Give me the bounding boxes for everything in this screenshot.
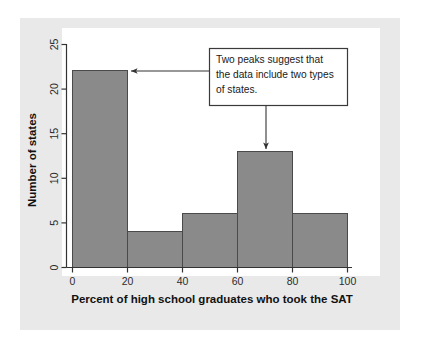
y-tick-label-0: 0 [48, 264, 60, 270]
bar-5[interactable] [293, 214, 348, 268]
y-tick-label-5: 5 [48, 220, 60, 226]
bar-4[interactable] [238, 152, 293, 268]
y-tick-label-15: 15 [48, 128, 60, 140]
histogram-chart: 0 5 10 15 20 25 0 20 40 60 80 100 Number… [0, 0, 423, 346]
annotation-two-peaks: Two peaks suggest that the data include … [131, 49, 348, 150]
x-tick-label-20: 20 [122, 275, 134, 287]
figure-container: 0 5 10 15 20 25 0 20 40 60 80 100 Number… [0, 0, 423, 346]
x-tick-label-80: 80 [287, 275, 299, 287]
x-axis-title: Percent of high school graduates who too… [71, 293, 353, 305]
bar-2[interactable] [128, 232, 183, 268]
y-tick-label-10: 10 [48, 172, 60, 184]
bar-3[interactable] [183, 214, 238, 268]
x-tick-label-0: 0 [70, 275, 76, 287]
y-axis-title: Number of states [26, 113, 38, 207]
callout-line-3: of states. [216, 84, 257, 95]
bar-1[interactable] [73, 71, 128, 268]
x-tick-labels: 0 20 40 60 80 100 [70, 275, 357, 287]
x-tick-label-40: 40 [177, 275, 189, 287]
callout-line-2: the data include two types [216, 69, 334, 80]
y-tick-label-25: 25 [48, 39, 60, 51]
y-tick-labels: 0 5 10 15 20 25 [48, 39, 60, 271]
x-tick-label-100: 100 [339, 275, 357, 287]
callout-line-1: Two peaks suggest that [216, 54, 323, 65]
x-tick-label-60: 60 [232, 275, 244, 287]
y-tick-label-20: 20 [48, 83, 60, 95]
